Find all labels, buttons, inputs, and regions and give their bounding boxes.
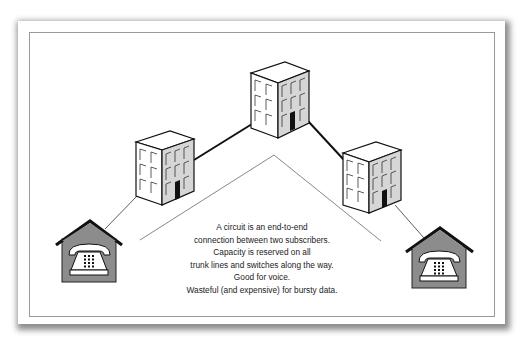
building-icon-switch-right <box>343 142 401 213</box>
trunk-line-left <box>194 124 252 160</box>
access-line-right <box>395 205 424 238</box>
house-telephone-icon-left <box>56 221 122 282</box>
diagram-caption: A circuit is an end-to-end connection be… <box>162 221 362 297</box>
caption-line-6: Wasteful (and expensive) for bursty data… <box>162 284 362 297</box>
house-telephone-icon-right <box>406 228 473 288</box>
access-line-left <box>105 196 137 229</box>
building-icon-switch-center <box>251 62 309 138</box>
building-icon-switch-left <box>136 131 194 205</box>
caption-line-3: Capacity is reserved on all <box>162 246 362 259</box>
trunk-line-right <box>308 121 344 160</box>
caption-line-5: Good for voice. <box>162 271 362 284</box>
caption-line-1: A circuit is an end-to-end <box>162 221 362 234</box>
caption-line-2: connection between two subscribers. <box>162 234 362 247</box>
caption-line-4: trunk lines and switches along the way. <box>162 259 362 272</box>
